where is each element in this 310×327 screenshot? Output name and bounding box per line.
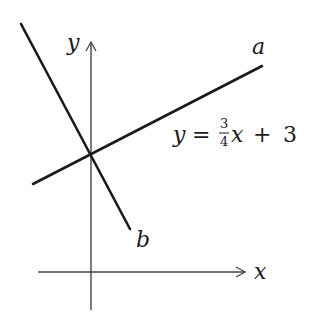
line-b-label: b — [136, 227, 150, 252]
equation-plus: + — [253, 122, 271, 147]
x-axis-label: x — [254, 259, 267, 284]
fraction-numerator: 3 — [220, 116, 228, 131]
line-a-label: a — [252, 34, 265, 59]
equation-line-a: y = 3 4 x + 3 — [172, 116, 297, 149]
equation-var: x — [231, 122, 244, 147]
fraction-denominator: 4 — [220, 134, 228, 149]
y-axis-label: y — [66, 30, 80, 55]
equation-const: 3 — [283, 122, 297, 147]
equation-lhs: y — [172, 122, 186, 147]
diagram-canvas: y x a b y = 3 4 x + 3 — [0, 0, 310, 327]
equation-equals: = — [192, 122, 210, 147]
coordinate-diagram: y x a b y = 3 4 x + 3 — [0, 0, 310, 327]
